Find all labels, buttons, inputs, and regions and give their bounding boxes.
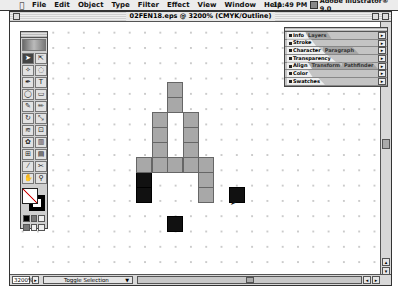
scroll-left-arrow-icon[interactable]: ◂ (363, 276, 371, 284)
selection-tool-icon[interactable]: ➤ (22, 53, 34, 64)
expand-toggle-icon[interactable] (289, 49, 292, 52)
full-screen-mode-button[interactable] (38, 224, 45, 231)
palette-tab-label: Stroke (293, 39, 311, 45)
direct-selection-tool-icon[interactable]: ⇱ (35, 53, 47, 64)
palette-menu-arrow-icon[interactable]: ▸ (378, 55, 386, 62)
palette-tab-stroke[interactable]: Stroke (287, 39, 316, 46)
graph-tool-icon[interactable]: ▥ (35, 137, 47, 148)
horizontal-scroll-thumb[interactable] (246, 277, 254, 283)
palette-tab-pathfinder[interactable]: Pathfinder (342, 62, 379, 69)
paintbrush-tool-icon[interactable]: ✎ (22, 101, 34, 112)
palette-tab-align[interactable]: Align (287, 62, 312, 69)
artwork-square[interactable] (183, 127, 199, 143)
zoom-tool-icon[interactable]: ⚲ (35, 173, 47, 184)
scissors-tool-icon[interactable]: ✂ (35, 161, 47, 172)
artwork-square[interactable] (136, 187, 152, 203)
expand-toggle-icon[interactable] (289, 34, 292, 37)
close-box-icon[interactable] (13, 13, 20, 20)
symbol-tool-icon[interactable]: ✿ (22, 137, 34, 148)
artwork-square[interactable] (183, 112, 199, 128)
screen-mode-buttons (21, 223, 47, 232)
palette-tab-paragraph[interactable]: Paragraph (323, 47, 359, 54)
palette-row: Swatches▸ (285, 78, 387, 86)
menu-file[interactable]: File (28, 1, 50, 9)
rectangle-tool-icon[interactable]: ▭ (35, 89, 47, 100)
pen-tool-icon[interactable]: ✒ (22, 77, 34, 88)
expand-toggle-icon[interactable] (289, 80, 292, 83)
expand-toggle-icon[interactable] (289, 72, 292, 75)
scroll-up-arrow-icon[interactable]: ▴ (382, 258, 390, 266)
palette-tab-swatches[interactable]: Swatches (287, 78, 325, 85)
status-display-dropdown[interactable]: Toggle Selection ▼ (43, 276, 133, 284)
mesh-tool-icon[interactable]: ⊞ (22, 149, 34, 160)
menu-view[interactable]: View (194, 1, 221, 9)
window-title-bar[interactable]: 02FEN18.eps @ 3200% (CMYK/Outline) (10, 12, 391, 22)
artwork-square[interactable] (152, 157, 168, 173)
palette-menu-arrow-icon[interactable]: ▸ (378, 70, 386, 77)
color-button[interactable] (23, 215, 30, 222)
zoom-box-icon[interactable] (372, 13, 379, 20)
artwork-square[interactable] (152, 112, 168, 128)
full-screen-menu-mode-button[interactable] (31, 224, 38, 231)
ellipse-tool-icon[interactable]: ◯ (22, 89, 34, 100)
fill-swatch-none[interactable] (22, 188, 38, 204)
palette-menu-arrow-icon[interactable]: ▸ (378, 40, 386, 47)
artwork-square[interactable] (198, 187, 214, 203)
palette-tab-transform[interactable]: Transform (309, 62, 345, 69)
expand-toggle-icon[interactable] (289, 57, 292, 60)
illustrator-logo[interactable] (22, 39, 46, 51)
lasso-tool-icon[interactable]: ◌ (35, 65, 47, 76)
expand-toggle-icon[interactable] (289, 65, 292, 68)
vertical-scroll-thumb[interactable] (382, 139, 390, 149)
palette-tab-character[interactable]: Character (287, 47, 326, 54)
artwork-square[interactable] (167, 97, 183, 113)
pencil-tool-icon[interactable]: ✏ (35, 101, 47, 112)
expand-toggle-icon[interactable] (289, 42, 292, 45)
palette-tab-layers[interactable]: Layers (306, 32, 332, 39)
palette-tab-color[interactable]: Color (287, 70, 313, 77)
artwork-square[interactable] (198, 157, 214, 173)
palette-tab-transparency[interactable]: Transparency (287, 55, 336, 62)
artwork-square[interactable] (152, 142, 168, 158)
menu-edit[interactable]: Edit (50, 1, 74, 9)
menu-object[interactable]: Object (74, 1, 108, 9)
zoom-level-field[interactable]: 3200% (12, 276, 30, 284)
horizontal-scrollbar[interactable] (137, 276, 362, 284)
zoom-menu-arrow-icon[interactable]: ▸ (32, 276, 39, 284)
artwork-square[interactable] (198, 172, 214, 188)
type-tool-icon[interactable]: T (35, 77, 47, 88)
palette-menu-arrow-icon[interactable]: ▸ (378, 63, 386, 70)
palette-menu-arrow-icon[interactable]: ▸ (378, 32, 386, 39)
gradient-button[interactable] (31, 215, 38, 222)
none-button[interactable] (38, 215, 45, 222)
palette-menu-arrow-icon[interactable]: ▸ (378, 47, 386, 54)
palette-tab-info[interactable]: Info (287, 32, 309, 39)
free-transform-tool-icon[interactable]: ⊡ (35, 125, 47, 136)
menu-effect[interactable]: Effect (163, 1, 194, 9)
artwork-square[interactable] (183, 142, 199, 158)
menu-filter[interactable]: Filter (134, 1, 163, 9)
palette-menu-arrow-icon[interactable]: ▸ (378, 78, 386, 85)
standard-screen-mode-button[interactable] (23, 224, 30, 231)
toolbox-title-bar[interactable] (21, 32, 47, 38)
hand-tool-icon[interactable]: ✋ (22, 173, 34, 184)
scale-tool-icon[interactable]: ⤡ (35, 113, 47, 124)
artwork-square[interactable] (167, 216, 183, 232)
collapse-box-icon[interactable] (382, 13, 389, 20)
artwork-square[interactable] (183, 157, 199, 173)
warp-tool-icon[interactable]: ≋ (22, 125, 34, 136)
artwork-square[interactable] (136, 172, 152, 188)
artwork-square[interactable] (167, 157, 183, 173)
apple-menu-icon[interactable]:  (16, 1, 28, 10)
gradient-tool-icon[interactable]: ▤ (35, 149, 47, 160)
rotate-tool-icon[interactable]: ↻ (22, 113, 34, 124)
magic-wand-tool-icon[interactable]: ✧ (22, 65, 34, 76)
menu-window[interactable]: Window (221, 1, 260, 9)
menu-type[interactable]: Type (107, 1, 133, 9)
artwork-square[interactable] (136, 157, 152, 173)
artwork-square[interactable] (167, 82, 183, 98)
scroll-right-arrow-icon[interactable]: ▸ (372, 276, 380, 284)
artwork-square[interactable] (152, 127, 168, 143)
eyedropper-tool-icon[interactable]: ⁄ (22, 161, 34, 172)
palette-tab-label: Color (293, 70, 308, 76)
